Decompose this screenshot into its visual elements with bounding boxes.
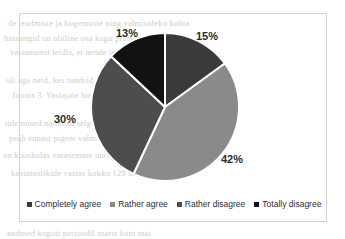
legend-square-marker: [177, 202, 182, 207]
pie-chart-plot-area: 15% 42% 30% 13% Completely agreeRather a…: [20, 14, 326, 221]
legend-item[interactable]: Rather agree: [110, 199, 168, 209]
pie-slice-group: [91, 33, 239, 181]
legend-item[interactable]: Completely agree: [27, 199, 102, 209]
slice-label-rather-agree: 42%: [221, 153, 243, 165]
slice-label-completely-agree: 15%: [196, 30, 218, 42]
chart-container: 15% 42% 30% 13% Completely agreeRather a…: [19, 13, 327, 222]
legend-item[interactable]: Totally disagree: [254, 199, 321, 209]
legend-item-label: Rather disagree: [185, 199, 245, 209]
legend-item[interactable]: Rather disagree: [177, 199, 245, 209]
legend-square-marker: [254, 202, 259, 207]
slice-label-totally-disagree: 13%: [116, 27, 138, 39]
legend-square-marker: [27, 202, 32, 207]
slice-label-rather-disagree: 30%: [54, 113, 76, 125]
chart-legend: Completely agreeRather agreeRather disag…: [20, 199, 328, 209]
legend-item-label: Rather agree: [118, 199, 168, 209]
pie-chart-svg[interactable]: [90, 32, 240, 182]
legend-item-label: Completely agree: [35, 199, 102, 209]
bleed-text-line: andmed koguti perioodil marts kuni mai: [7, 228, 151, 238]
legend-item-label: Totally disagree: [262, 199, 321, 209]
legend-square-marker: [110, 202, 115, 207]
